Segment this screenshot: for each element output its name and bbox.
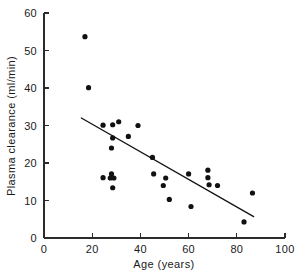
y-axis-ticks — [44, 13, 49, 238]
y-tick-label: 50 — [24, 45, 37, 57]
data-point — [151, 171, 156, 176]
scatter-plot-figure: 0102030405060 020406080100 Age (years) P… — [0, 0, 299, 275]
regression-fit-line — [81, 118, 253, 217]
y-axis-title: Plasma clearance (ml/min) — [5, 56, 17, 196]
data-point — [109, 145, 114, 150]
data-point — [188, 204, 193, 209]
y-tick-label: 0 — [31, 232, 37, 244]
x-tick-label: 20 — [86, 243, 99, 255]
x-tick-label: 80 — [230, 243, 243, 255]
data-point-group — [82, 34, 255, 224]
data-point — [205, 175, 210, 180]
x-tick-label: 40 — [134, 243, 147, 255]
data-point — [215, 183, 220, 188]
data-point — [111, 175, 116, 180]
data-point — [206, 182, 211, 187]
data-point — [110, 122, 115, 127]
x-axis-ticks — [44, 233, 285, 238]
data-point — [163, 175, 168, 180]
y-tick-label: 20 — [24, 157, 37, 169]
x-tick-label: 100 — [275, 243, 294, 255]
x-tick-label: 0 — [41, 243, 47, 255]
data-point — [110, 185, 115, 190]
y-tick-label: 30 — [24, 120, 37, 132]
data-point — [250, 190, 255, 195]
data-point — [100, 175, 105, 180]
x-tick-label: 60 — [182, 243, 195, 255]
data-point — [205, 168, 210, 173]
plot-canvas: 0102030405060 020406080100 Age (years) P… — [0, 0, 299, 275]
x-axis-tick-labels: 020406080100 — [41, 243, 295, 255]
data-point — [110, 135, 115, 140]
data-point — [167, 197, 172, 202]
data-point — [82, 34, 87, 39]
data-point — [100, 123, 105, 128]
data-point — [135, 123, 140, 128]
y-tick-label: 10 — [24, 195, 37, 207]
data-point — [241, 219, 246, 224]
y-tick-label: 40 — [24, 82, 37, 94]
data-point — [161, 183, 166, 188]
data-point — [186, 171, 191, 176]
data-point — [116, 119, 121, 124]
x-axis-title: Age (years) — [133, 258, 194, 270]
y-axis-tick-labels: 0102030405060 — [24, 7, 37, 244]
y-tick-label: 60 — [24, 7, 37, 19]
data-point — [150, 155, 155, 160]
data-point — [86, 85, 91, 90]
data-point — [126, 134, 131, 139]
